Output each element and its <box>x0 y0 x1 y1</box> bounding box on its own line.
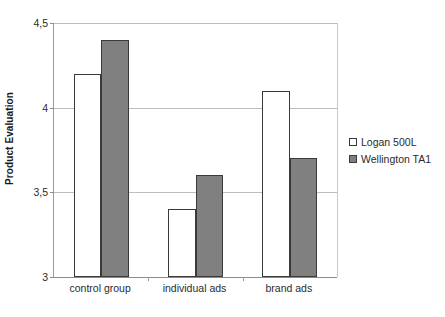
y-axis-tick-mark <box>50 108 54 109</box>
legend-entry: Wellington TA1 <box>349 151 431 166</box>
y-axis-title-label: Product Evaluation <box>4 92 15 185</box>
legend-label: Wellington TA1 <box>361 153 431 165</box>
bar-chart-figure: Product Evaluation 33,544,5 control grou… <box>0 0 445 317</box>
bar <box>101 40 129 277</box>
x-axis-tick-label: individual ads <box>163 282 227 294</box>
legend-swatch-icon <box>349 155 357 163</box>
legend-swatch-icon <box>349 138 357 146</box>
gridline <box>54 23 337 24</box>
bar <box>290 158 318 277</box>
y-axis-tick-labels: 33,544,5 <box>20 0 48 317</box>
legend-label: Logan 500L <box>361 136 416 148</box>
y-axis-tick-label: 4 <box>20 102 48 114</box>
y-axis-tick-mark <box>50 23 54 24</box>
legend-entry: Logan 500L <box>349 134 431 149</box>
x-axis-category-separator <box>148 277 149 281</box>
y-axis-tick-mark <box>50 192 54 193</box>
bar <box>196 175 224 277</box>
y-axis-tick-label: 3,5 <box>20 186 48 198</box>
bar <box>74 74 102 277</box>
y-axis-tick-mark <box>50 277 54 278</box>
y-axis-tick-label: 3 <box>20 271 48 283</box>
y-axis-tick-label: 4,5 <box>20 17 48 29</box>
plot-area <box>53 23 338 277</box>
bar <box>262 91 290 277</box>
chart-legend: Logan 500LWellington TA1 <box>349 134 431 168</box>
x-axis-tick-label: brand ads <box>265 282 312 294</box>
x-axis-category-separator <box>243 277 244 281</box>
gridline <box>54 277 337 278</box>
y-axis-title: Product Evaluation <box>0 0 18 277</box>
x-axis-tick-labels: control groupindividual adsbrand ads <box>53 282 338 302</box>
bar <box>168 209 196 277</box>
x-axis-tick-label: control group <box>70 282 131 294</box>
